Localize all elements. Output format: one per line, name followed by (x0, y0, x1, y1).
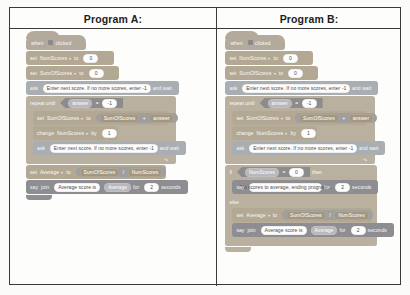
if-label: if (229, 169, 232, 175)
say-text-input[interactable]: No scores to average, ending program... (249, 183, 321, 192)
sumofscores-reporter[interactable]: SumOfScores (80, 168, 120, 177)
when-flag-clicked-block[interactable]: when clicked (26, 35, 86, 50)
variable-dropdown[interactable]: NumScores (40, 55, 71, 61)
repeat-until-header[interactable]: repeat until answer = -1 (26, 96, 176, 110)
set-label: set (236, 115, 243, 121)
set-average-block[interactable]: set Average to SumOfScores / NumScores (232, 208, 372, 222)
ask-and-wait-block[interactable]: ask Enter next score. If no more scores,… (26, 81, 179, 95)
variable-dropdown[interactable]: NumScores (239, 55, 270, 61)
repeat-until-header[interactable]: repeat until answer = -1 (225, 96, 375, 110)
ask-and-wait-block-2[interactable]: ask Enter next score. If no more scores,… (33, 141, 186, 155)
numscores-reporter[interactable]: NumScores (128, 168, 163, 177)
say-average-block[interactable]: say join Average score is Average for 2 … (26, 180, 188, 194)
for-label: for (133, 184, 139, 190)
to-label: to (86, 115, 90, 121)
repeat-until-block[interactable]: repeat until answer = -1 set SumOfScores… (26, 96, 176, 164)
set-sumofscores-block[interactable]: set SumOfScores to 0 (26, 66, 119, 80)
answer-reporter[interactable]: answer (349, 114, 373, 123)
ask-label: ask (236, 145, 244, 151)
value-input[interactable]: 0 (283, 54, 298, 63)
set-label: set (30, 169, 37, 175)
compare-value-input[interactable]: -1 (102, 99, 117, 108)
if-else-block[interactable]: if NumScores = 0 then say No scores to a… (225, 165, 377, 246)
say-average-block[interactable]: say join Average score is Average for 2 … (232, 223, 394, 237)
set-numscores-block[interactable]: set NumScores to 0 (225, 51, 313, 65)
cell-program-a: when clicked set NumScores to 0 set SumO… (10, 29, 216, 286)
variable-dropdown[interactable]: Average (40, 169, 63, 175)
and-wait-label: and wait (153, 85, 172, 91)
equals-condition[interactable]: NumScores = 0 (237, 167, 310, 177)
to-label: to (273, 55, 277, 61)
variable-dropdown[interactable]: Average (246, 212, 269, 218)
equals-condition[interactable]: answer = -1 (260, 98, 323, 108)
value-input[interactable]: 0 (83, 54, 98, 63)
average-reporter[interactable]: Average (311, 226, 338, 235)
variable-dropdown[interactable]: SumOfScores (246, 115, 282, 121)
numscores-reporter[interactable]: NumScores (245, 168, 279, 177)
loop-arrow-icon: ↷ (164, 157, 168, 163)
value-input[interactable]: 0 (288, 69, 303, 78)
numscores-reporter[interactable]: NumScores (334, 211, 369, 220)
ask-prompt-input[interactable]: Enter next score. If no more scores, ent… (242, 84, 350, 93)
answer-reporter[interactable]: answer (268, 99, 292, 108)
equals-operator: = (283, 169, 286, 175)
variable-dropdown[interactable]: SumOfScores (40, 70, 76, 76)
set-sum-accumulate-block[interactable]: set SumOfScores to SumOfScores + answer (33, 111, 168, 125)
compare-value-input[interactable]: 0 (289, 168, 304, 177)
division-operator-block[interactable]: SumOfScores / NumScores (76, 167, 167, 177)
change-numscores-block[interactable]: change NumScores by 1 (232, 126, 317, 140)
ask-prompt-input[interactable]: Enter next score. If no more scores, ent… (43, 84, 151, 93)
repeat-until-footer: ↷ (26, 157, 176, 164)
seconds-label: seconds (352, 184, 371, 190)
repeat-until-block[interactable]: repeat until answer = -1 set SumOfScores… (225, 96, 375, 164)
say-no-scores-block[interactable]: say No scores to average, ending program… (232, 180, 378, 194)
division-operator-block[interactable]: SumOfScores / NumScores (282, 210, 373, 220)
compare-value-input[interactable]: -1 (302, 99, 317, 108)
sumofscores-reporter[interactable]: SumOfScores (100, 114, 140, 123)
plus-operator: + (143, 115, 146, 121)
answer-reporter[interactable]: answer (68, 99, 92, 108)
set-average-block[interactable]: set Average to SumOfScores / NumScores (26, 165, 166, 179)
change-value-input[interactable]: 1 (301, 129, 316, 138)
ask-and-wait-block-2[interactable]: ask Enter next score. If no more scores,… (232, 141, 385, 155)
set-numscores-block[interactable]: set NumScores to 0 (26, 51, 114, 65)
sumofscores-reporter[interactable]: SumOfScores (286, 211, 326, 220)
if-header[interactable]: if NumScores = 0 then (225, 165, 377, 179)
ask-and-wait-block[interactable]: ask Enter next score. If no more scores,… (225, 81, 378, 95)
join-text-input[interactable]: Average score is (261, 226, 307, 235)
value-input[interactable]: 0 (89, 69, 104, 78)
variable-dropdown[interactable]: SumOfScores (239, 70, 275, 76)
addition-operator-block[interactable]: SumOfScores + answer (295, 113, 377, 123)
change-label: change (37, 130, 54, 136)
change-value-input[interactable]: 1 (102, 129, 117, 138)
change-label: change (236, 130, 253, 136)
repeat-until-label: repeat until (229, 100, 254, 106)
when-flag-clicked-block[interactable]: when clicked (225, 35, 285, 50)
when-label: when (230, 40, 242, 46)
say-label: say (236, 227, 244, 233)
and-wait-label: and wait (160, 145, 179, 151)
sumofscores-reporter[interactable]: SumOfScores (299, 114, 339, 123)
set-label: set (37, 115, 44, 121)
seconds-input[interactable]: 2 (335, 183, 350, 192)
for-label: for (339, 227, 345, 233)
set-sum-accumulate-block[interactable]: set SumOfScores to SumOfScores + answer (232, 111, 367, 125)
addition-operator-block[interactable]: SumOfScores + answer (96, 113, 178, 123)
join-text-input[interactable]: Average score is (54, 183, 100, 192)
equals-condition[interactable]: answer = -1 (60, 98, 123, 108)
seconds-input[interactable]: 2 (351, 226, 366, 235)
answer-reporter[interactable]: answer (149, 114, 173, 123)
to-label: to (279, 70, 283, 76)
change-numscores-block[interactable]: change NumScores by 1 (33, 126, 118, 140)
green-flag-icon (48, 40, 53, 45)
seconds-input[interactable]: 2 (144, 183, 159, 192)
variable-dropdown[interactable]: SumOfScores (47, 115, 83, 121)
ask-prompt-input[interactable]: Enter next score. If no more scores, ent… (50, 144, 158, 153)
for-label: for (324, 184, 330, 190)
else-header[interactable]: else (225, 196, 377, 207)
variable-dropdown[interactable]: NumScores (57, 130, 88, 136)
set-sumofscores-block[interactable]: set SumOfScores to 0 (225, 66, 318, 80)
average-reporter[interactable]: Average (104, 183, 131, 192)
ask-prompt-input[interactable]: Enter next score. If no more scores, ent… (249, 144, 357, 153)
variable-dropdown[interactable]: NumScores (256, 130, 287, 136)
